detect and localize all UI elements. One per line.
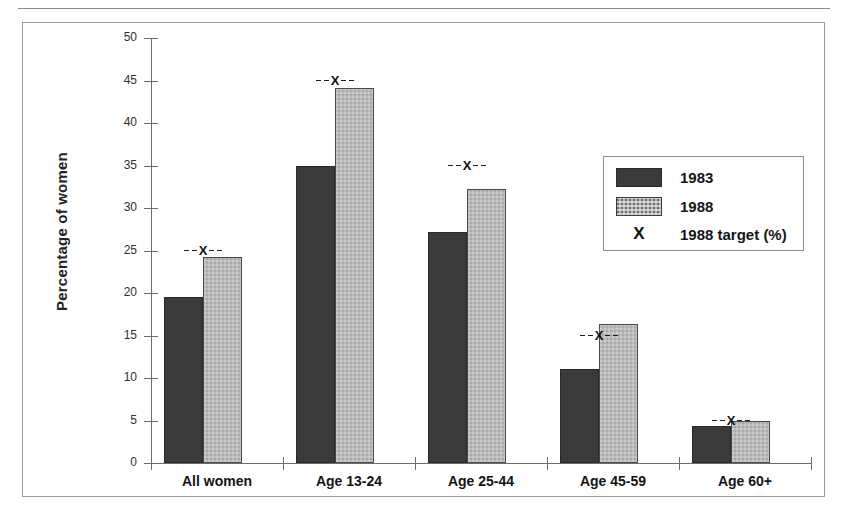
bar-1988-age-13-24 xyxy=(335,88,374,463)
top-horizontal-rule xyxy=(18,8,830,9)
y-axis-tick-label: 30 xyxy=(109,200,137,214)
bar-1988-age-25-44 xyxy=(467,189,506,463)
y-axis-tick-label: 50 xyxy=(109,30,137,44)
legend-swatch-1988 xyxy=(616,197,662,216)
bar-1988-all-women xyxy=(203,257,242,463)
x-axis-tick xyxy=(415,457,416,470)
x-axis-tick xyxy=(283,457,284,470)
x-axis-tick xyxy=(679,457,680,470)
y-axis-tick xyxy=(144,208,158,209)
chart-frame: Percentage of women 05101520253035404550… xyxy=(22,22,825,497)
bar-1988-age-45-59 xyxy=(599,324,638,463)
legend-box: 1983 1988 X 1988 target (%) xyxy=(603,156,804,251)
y-axis-tick-label: 35 xyxy=(109,158,137,172)
legend-label-target: 1988 target (%) xyxy=(680,226,787,243)
y-axis-tick xyxy=(144,166,158,167)
y-axis-tick-label: 0 xyxy=(109,455,137,469)
category-label-age-60+: Age 60+ xyxy=(679,473,811,489)
category-label-age-25-44: Age 25-44 xyxy=(415,473,547,489)
y-axis-tick-label: 20 xyxy=(109,285,137,299)
y-axis-tick xyxy=(144,251,158,252)
legend-item-1988: 1988 xyxy=(616,197,713,216)
category-label-age-45-59: Age 45-59 xyxy=(547,473,679,489)
target-marker-all-women: X xyxy=(173,244,233,258)
category-label-age-13-24: Age 13-24 xyxy=(283,473,415,489)
x-axis-tick xyxy=(151,457,152,470)
bar-1983-age-13-24 xyxy=(296,166,335,464)
y-axis-tick xyxy=(144,38,158,39)
bar-1983-age-60+ xyxy=(692,426,731,463)
plot-area: Percentage of women 05101520253035404550… xyxy=(23,23,826,496)
bar-1983-all-women xyxy=(164,297,203,463)
y-axis-tick xyxy=(144,81,158,82)
bar-1988-age-60+ xyxy=(731,421,770,464)
target-marker-age-25-44: X xyxy=(437,159,497,173)
legend-swatch-1983 xyxy=(616,168,662,187)
y-axis-tick xyxy=(144,421,158,422)
legend-label-1983: 1983 xyxy=(680,169,713,186)
target-marker-age-13-24: X xyxy=(305,74,365,88)
bar-1983-age-25-44 xyxy=(428,232,467,463)
y-axis-tick-label: 40 xyxy=(109,115,137,129)
y-axis-tick-label: 5 xyxy=(109,413,137,427)
y-axis-tick xyxy=(144,123,158,124)
y-axis-tick xyxy=(144,336,158,337)
legend-item-1983: 1983 xyxy=(616,168,713,187)
x-axis-line xyxy=(151,463,811,464)
y-axis-tick-label: 10 xyxy=(109,370,137,384)
legend-item-target: X 1988 target (%) xyxy=(616,224,787,244)
y-axis-title: Percentage of women xyxy=(53,132,70,332)
y-axis-tick-label: 25 xyxy=(109,243,137,257)
category-label-all-women: All women xyxy=(151,473,283,489)
y-axis-tick-label: 45 xyxy=(109,73,137,87)
x-axis-tick xyxy=(811,457,812,470)
legend-label-1988: 1988 xyxy=(680,198,713,215)
x-axis-tick xyxy=(547,457,548,470)
bar-1983-age-45-59 xyxy=(560,369,599,463)
y-axis-tick xyxy=(144,293,158,294)
x-marker-icon: X xyxy=(616,224,662,244)
y-axis-tick-label: 15 xyxy=(109,328,137,342)
y-axis-tick xyxy=(144,378,158,379)
